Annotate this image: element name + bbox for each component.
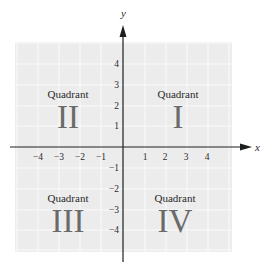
quadrant-numeral: III [52,203,85,239]
x-tick-label: −1 [96,152,106,162]
x-tick-label: 3 [184,152,189,162]
quadrant-iii: Quadrant III [48,192,89,239]
y-tick-label: −3 [109,205,119,215]
x-tick-label: −4 [33,152,43,162]
quadrant-iv: Quadrant IV [155,192,196,239]
quadrant-numeral: IV [158,203,193,239]
x-tick-label: −3 [54,152,64,162]
y-axis-label: y [120,7,126,19]
coordinate-plane: x y −4 −3 −2 −1 1 2 3 4 4 3 2 1 −1 −2 −3… [0,0,277,268]
y-tick-label: −4 [109,225,119,235]
x-axis-label: x [254,141,260,153]
x-tick-label: 2 [163,152,168,162]
y-tick-label: 3 [114,80,119,90]
y-axis-arrow-icon [120,25,127,37]
y-tick-label: 1 [114,121,119,131]
y-tick-label: −1 [109,163,119,173]
x-axis-arrow-icon [240,144,252,151]
y-tick-label: −2 [109,184,119,194]
x-tick-label: −2 [75,152,85,162]
x-tick-label: 4 [205,152,210,162]
quadrant-numeral: II [57,99,79,135]
y-tick-label: 2 [114,101,119,111]
x-tick-label: 1 [143,152,148,162]
quadrant-numeral: I [173,99,184,135]
y-tick-label: 4 [114,59,119,69]
